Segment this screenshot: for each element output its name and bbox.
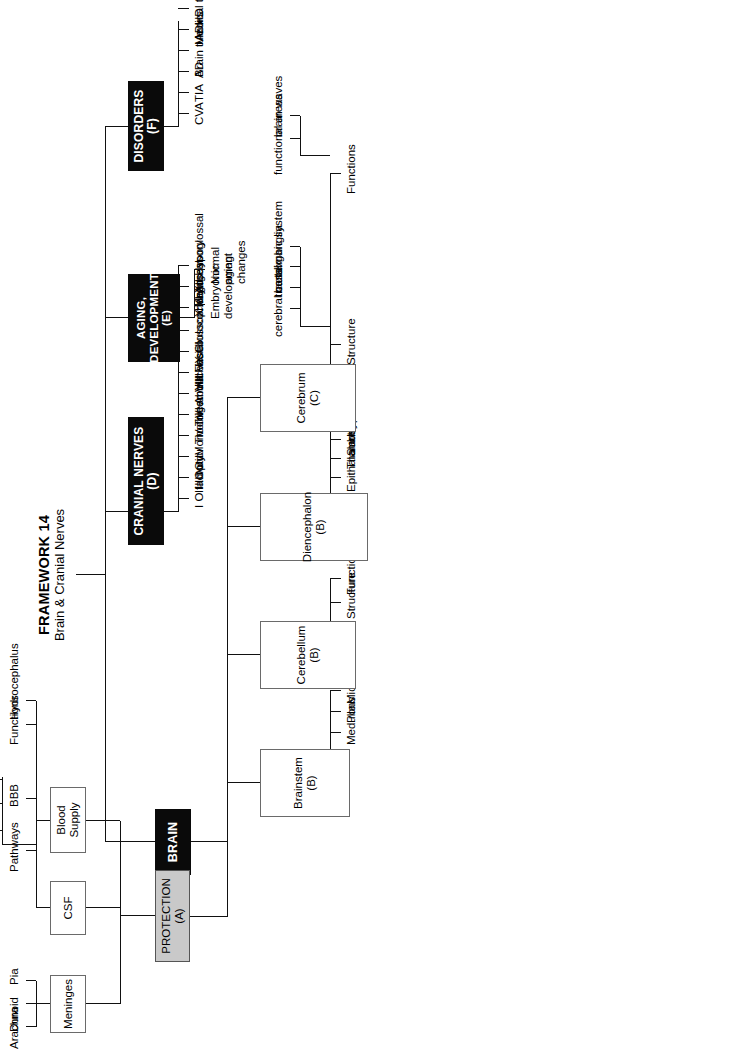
spine-drop-brain: [105, 841, 155, 842]
dis-tick-5: [178, 8, 189, 9]
node-brain-label: BRAIN: [166, 822, 180, 863]
meninges-bus: [36, 981, 37, 1027]
cerebrum-structure-link: [300, 326, 330, 327]
cerebellum-tick-0: [330, 602, 341, 603]
node-diencephalon-label: Diencephalon (B): [301, 492, 327, 562]
pathways-tick-1: [0, 803, 2, 804]
node-blood-supply-label: Blood Supply: [55, 788, 81, 852]
cn-tick-6: [178, 372, 189, 373]
csf-bus: [36, 701, 37, 851]
riser-brainstem: [227, 782, 260, 783]
csf-stem: [36, 907, 50, 908]
title-stem: [76, 574, 105, 575]
node-meninges-label: Meninges: [62, 979, 75, 1029]
node-disorders-label: DISORDERS (F): [133, 81, 160, 171]
leaf-normal-aging-changes: Normal aging changes: [209, 224, 248, 284]
csf-tick-pathways: [26, 850, 36, 851]
bloodsupply-tick-bbb: [26, 798, 36, 799]
node-aging-development[interactable]: AGING, DEVELOPMENT (E): [128, 274, 180, 362]
drop-bloodsupply: [86, 820, 120, 821]
cerebrum-bus: [330, 174, 331, 364]
disorders-bus: [178, 21, 179, 127]
cn-tick-1: [178, 477, 189, 478]
diencephalon-tick-1: [330, 458, 341, 459]
node-aging-label-1: AGING,: [135, 297, 148, 339]
brainstem-tick-0: [330, 732, 341, 733]
brain-child-bus: [227, 398, 228, 917]
leaf-tia: TIA: [193, 84, 206, 102]
leaf-medical-terms: Medical terms: [193, 0, 206, 45]
leaf-cerebrum-functions: Functions: [345, 144, 358, 194]
node-diencephalon[interactable]: Diencephalon (B): [260, 493, 368, 561]
dis-tick-1: [178, 92, 189, 93]
brain-stem: [191, 841, 227, 842]
csf-bus-left: [36, 850, 37, 908]
node-cranial-nerves[interactable]: CRANIAL NERVES (D): [128, 417, 164, 545]
cn-tick-5: [178, 393, 189, 394]
cf-tick-0: [290, 138, 300, 139]
node-brain[interactable]: BRAIN: [155, 809, 191, 875]
cs-tick-1: [290, 287, 300, 288]
node-brainstem[interactable]: Brainstem (B): [260, 749, 350, 817]
aging-tick-1: [194, 269, 205, 270]
csf-tick-hydrocephalus: [26, 700, 36, 701]
spine-drop-disorders: [105, 126, 128, 127]
cs-tick-2: [290, 266, 300, 267]
riser-protection: [190, 916, 227, 917]
protection-stem: [120, 915, 155, 916]
brainstem-bus: [330, 691, 331, 749]
cn-tick-4: [178, 414, 189, 415]
node-disorders[interactable]: DISORDERS (F): [128, 81, 164, 171]
pathways-children-bus: [2, 777, 3, 845]
dis-tick-2: [178, 71, 189, 72]
cerebrum-tick-functions: [330, 173, 341, 174]
node-aging-label-2: DEVELOPMENT (E): [148, 273, 174, 363]
spine-drop-aging: [105, 317, 128, 318]
leaf-pathways: Pathways: [8, 822, 21, 872]
node-blood-supply[interactable]: Blood Supply: [50, 787, 86, 853]
node-cranial-nerves-label: CRANIAL NERVES (D): [133, 417, 160, 545]
cerebellum-bus: [330, 579, 331, 621]
leaf-brain-waves: brain waves: [272, 76, 285, 137]
cerebellum-tick-1: [330, 578, 341, 579]
riser-diencephalon: [227, 526, 260, 527]
leaf-bbb: BBB: [8, 784, 21, 807]
node-meninges[interactable]: Meninges: [50, 975, 86, 1033]
cranial-stem: [164, 511, 178, 512]
drop-csf: [86, 907, 120, 908]
leaf-arachnoid: Arachnoid: [8, 997, 21, 1049]
riser-cerebrum: [227, 397, 260, 398]
riser-cerebellum: [227, 654, 260, 655]
node-csf[interactable]: CSF: [50, 881, 86, 935]
node-cerebellum-label: Cerebellum (B): [295, 622, 321, 688]
leaf-limbic-system: limbic system: [272, 201, 285, 270]
disorders-stem: [164, 126, 178, 127]
cerebrum-tick-structure: [330, 344, 341, 345]
meninges-tick-2: [26, 980, 36, 981]
title-line-1: FRAMEWORK 14: [36, 450, 52, 700]
cn-tick-11: [178, 265, 189, 266]
node-cerebrum-label: Cerebrum (C): [295, 365, 321, 431]
cerebrum-structure-bus: [300, 247, 301, 327]
cn-tick-2: [178, 456, 189, 457]
title-line-2: Brain & Cranial Nerves: [52, 450, 67, 700]
dis-tick-4: [178, 29, 189, 30]
leaf-pia: Pia: [8, 968, 21, 985]
diencephalon-tick-2: [330, 439, 341, 440]
brainstem-tick-1: [330, 711, 341, 712]
node-cerebrum[interactable]: Cerebrum (C): [260, 364, 356, 432]
main-spine: [105, 127, 106, 842]
leaf-cerebrum-structure: Structure: [345, 318, 358, 365]
cs-tick-0: [290, 308, 300, 309]
meninges-tick-1: [26, 1003, 36, 1004]
aging-tick-0: [194, 304, 205, 305]
node-protection[interactable]: PROTECTION (A): [155, 870, 190, 962]
node-cerebellum[interactable]: Cerebellum (B): [260, 621, 356, 689]
aging-stem: [180, 317, 194, 318]
spine-drop-cranial: [105, 511, 128, 512]
pathways-tick-2: [0, 779, 2, 780]
bloodsupply-bus: [36, 799, 37, 821]
pathways-tick-0: [0, 830, 2, 831]
dis-tick-0: [178, 113, 189, 114]
